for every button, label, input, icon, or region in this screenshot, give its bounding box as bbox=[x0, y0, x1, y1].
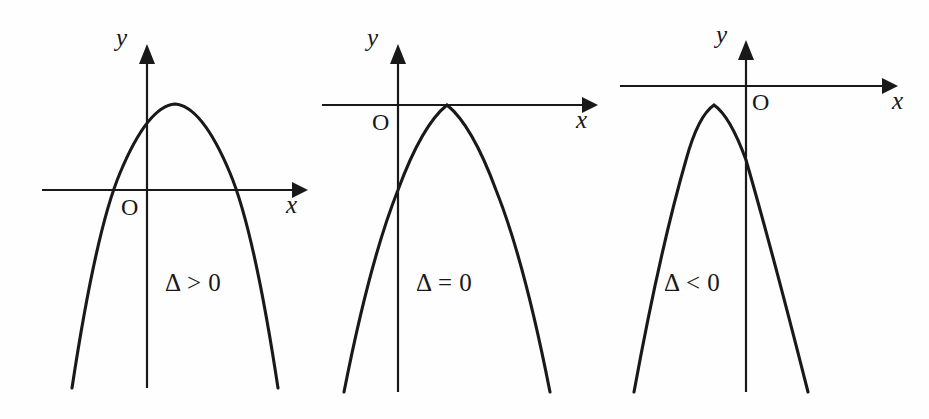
y-axis-label: y bbox=[367, 25, 378, 50]
panel-3-graph bbox=[620, 0, 929, 419]
parabola-curve bbox=[72, 104, 278, 388]
parabola-curve bbox=[634, 105, 808, 392]
x-axis bbox=[42, 182, 308, 198]
x-axis-label: x bbox=[892, 88, 903, 113]
y-axis bbox=[139, 44, 155, 388]
panel-2-graph bbox=[310, 0, 620, 419]
origin-label: O bbox=[121, 195, 138, 219]
parabola-curve bbox=[344, 105, 550, 392]
origin-label: O bbox=[372, 110, 389, 134]
y-axis-label: y bbox=[716, 22, 727, 47]
case-label-delta-zero: Δ = 0 bbox=[416, 270, 472, 295]
case-label-delta-negative: Δ < 0 bbox=[664, 270, 720, 295]
origin-label: O bbox=[752, 90, 769, 114]
panel-delta-negative: y x O Δ < 0 bbox=[620, 0, 929, 419]
panel-delta-zero: y x O Δ = 0 bbox=[310, 0, 620, 419]
panel-1-graph bbox=[0, 0, 310, 419]
y-axis bbox=[390, 44, 406, 392]
y-axis-label: y bbox=[116, 25, 127, 50]
case-label-delta-positive: Δ > 0 bbox=[165, 270, 221, 295]
x-axis-label: x bbox=[576, 107, 587, 132]
x-axis bbox=[322, 97, 598, 113]
x-axis-label: x bbox=[286, 192, 297, 217]
parabola-discriminant-figure: y x O Δ > 0 y x O Δ = 0 bbox=[0, 0, 929, 419]
panel-delta-positive: y x O Δ > 0 bbox=[0, 0, 310, 419]
